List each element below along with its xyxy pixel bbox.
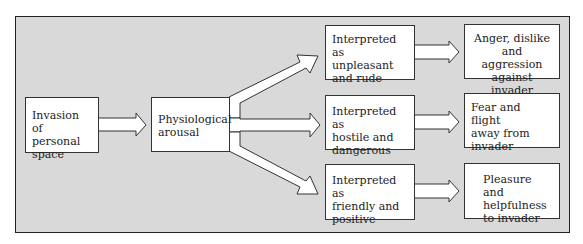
start-box: Invasion of personal space — [25, 97, 99, 153]
interpretation-text: Interpreted as hostile and dangerous — [332, 105, 408, 157]
outcome-box-3: Pleasure and helpfulness to invader — [464, 163, 560, 219]
interpretation-box-3: Interpreted as friendly and positive — [325, 164, 415, 220]
branch-arrow-top-icon — [229, 55, 318, 118]
arrow-icon — [414, 111, 459, 133]
interpretation-box-1: Interpreted as unpleasant and rude — [325, 25, 415, 80]
interpretation-text: Interpreted as friendly and positive — [332, 174, 408, 226]
outcome-text: Anger, dislike and aggression against in… — [471, 32, 553, 97]
arrow-icon — [98, 113, 146, 136]
arousal-box: Physiological arousal — [151, 97, 230, 152]
interpretation-text: Interpreted as unpleasant and rude — [332, 33, 408, 85]
arousal-text: Physiological arousal — [158, 113, 223, 139]
arrow-icon — [414, 41, 459, 63]
outcome-box-2: Fear and flight away from invader — [464, 93, 560, 148]
start-text: Invasion of personal space — [32, 109, 92, 161]
branch-arrow-middle-icon — [229, 113, 320, 137]
outcome-text: Fear and flight away from invader — [471, 101, 553, 153]
interpretation-box-2: Interpreted as hostile and dangerous — [325, 95, 415, 150]
outcome-text: Pleasure and helpfulness to invader — [483, 173, 553, 225]
arrow-icon — [414, 180, 459, 202]
branch-arrow-bottom-icon — [229, 132, 318, 194]
outcome-box-1: Anger, dislike and aggression against in… — [464, 24, 560, 79]
